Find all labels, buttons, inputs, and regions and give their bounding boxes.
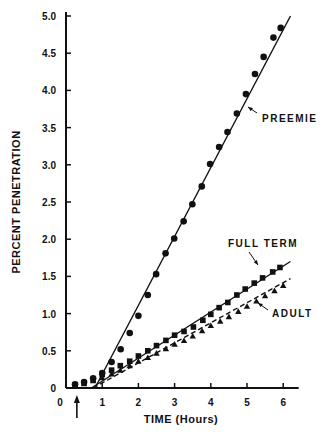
point-full-term — [163, 338, 169, 344]
point-full-term — [181, 329, 187, 335]
y-tick-label: 4.5 — [42, 48, 56, 59]
point-full-term — [225, 300, 231, 306]
point-adult — [190, 333, 196, 339]
point-preemie — [234, 110, 241, 117]
penetration-chart: 00.51.01.52.02.53.03.54.04.55.00123456 T… — [0, 0, 324, 436]
point-full-term — [242, 286, 248, 292]
series-label-full-term: FULL TERM — [228, 238, 298, 249]
pointer-arrowhead-icon — [258, 303, 263, 307]
y-tick-label: 3.0 — [42, 160, 56, 171]
point-preemie — [145, 292, 152, 299]
point-preemie — [252, 71, 259, 78]
y-tick-label: 2.5 — [42, 197, 56, 208]
point-preemie — [135, 313, 142, 320]
point-preemie — [153, 271, 160, 278]
labels: TIME (Hours) PERCENT PENETRATION PREEMIE… — [10, 107, 318, 425]
point-preemie — [108, 359, 115, 366]
point-full-term — [277, 265, 283, 271]
point-adult — [181, 337, 187, 343]
start-arrow-icon — [74, 395, 80, 403]
pointer-arrowhead-icon — [248, 107, 253, 111]
point-preemie — [277, 25, 284, 32]
point-full-term — [191, 324, 197, 330]
point-preemie — [180, 218, 187, 225]
point-preemie — [243, 91, 250, 98]
x-axis-title: TIME (Hours) — [144, 413, 218, 425]
point-full-term — [136, 353, 142, 359]
point-full-term — [200, 317, 206, 323]
point-adult — [280, 282, 286, 288]
point-preemie — [270, 34, 277, 41]
x-tick-label: 1 — [99, 397, 105, 408]
point-preemie — [216, 144, 223, 151]
point-full-term — [270, 269, 276, 275]
point-preemie — [171, 235, 178, 242]
y-tick-label: 0.5 — [42, 346, 56, 357]
point-full-term — [216, 305, 222, 311]
point-preemie — [126, 330, 133, 337]
point-adult — [244, 303, 250, 309]
point-full-term — [260, 275, 266, 281]
y-tick-label: 1.5 — [42, 271, 56, 282]
point-preemie — [207, 161, 214, 168]
point-full-term — [172, 332, 178, 338]
y-tick-label: 1.0 — [42, 309, 56, 320]
series-label-preemie: PREEMIE — [262, 113, 318, 124]
x-tick-label: 5 — [244, 397, 250, 408]
x-tick-label: 3 — [172, 397, 178, 408]
point-preemie — [117, 346, 124, 353]
point-full-term — [154, 343, 160, 349]
series-label-adult: ADULT — [272, 308, 313, 319]
y-tick-label: 0 — [50, 383, 56, 394]
point-preemie — [260, 54, 267, 61]
point-preemie — [198, 183, 205, 190]
point-adult — [217, 318, 223, 324]
y-axis-title: PERCENT PENETRATION — [10, 130, 22, 273]
point-full-term — [208, 312, 214, 318]
point-full-term — [234, 292, 240, 298]
point-preemie — [224, 129, 231, 136]
point-full-term — [251, 280, 257, 286]
y-tick-label: 3.5 — [42, 123, 56, 134]
pointer-arrowhead-icon — [254, 260, 258, 265]
x-tick-label: 2 — [136, 397, 142, 408]
y-tick-label: 5.0 — [42, 11, 56, 22]
point-adult — [145, 354, 151, 360]
point-preemie — [162, 250, 169, 257]
x-tick-label: 6 — [280, 397, 286, 408]
axes: 00.51.01.52.02.53.03.54.04.55.00123456 — [42, 11, 299, 418]
y-tick-label: 2.0 — [42, 234, 56, 245]
x-tick-label: 4 — [208, 397, 214, 408]
y-tick-label: 4.0 — [42, 85, 56, 96]
data-points — [72, 25, 287, 389]
point-preemie — [189, 201, 196, 208]
point-full-term — [145, 348, 151, 354]
x-tick-label: 0 — [57, 397, 63, 408]
